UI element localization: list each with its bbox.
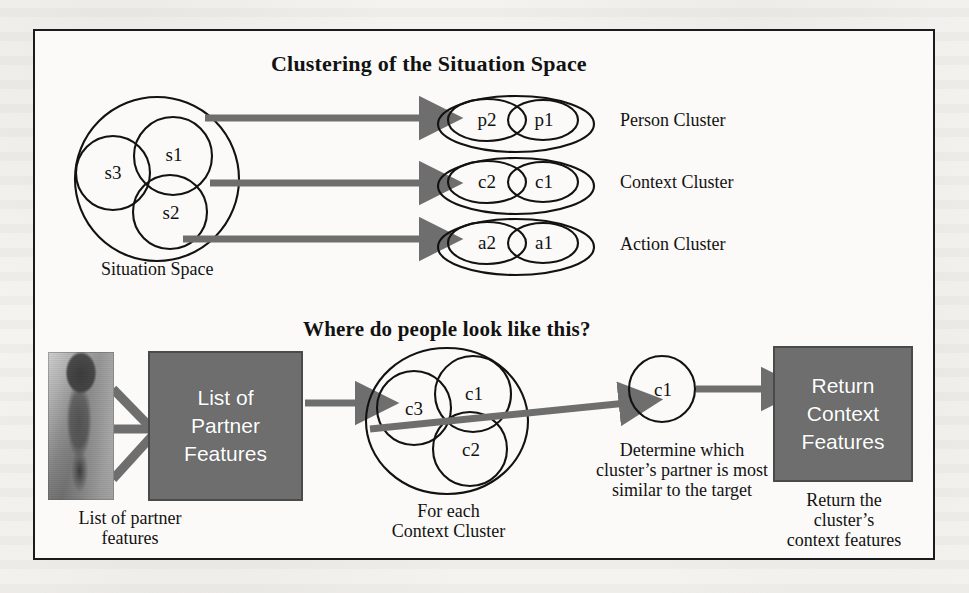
photo-caption-line1: List of partner [55, 508, 205, 528]
situation-space-label: Situation Space [101, 259, 213, 280]
cluster-caption-line2: Context Cluster [356, 521, 541, 541]
node-c1-selected: c1 [654, 379, 672, 401]
top-section-title: Clustering of the Situation Space [271, 51, 587, 77]
node-a2: a2 [478, 232, 496, 254]
action-cluster-shape [438, 219, 594, 275]
photo-caption: List of partner features [55, 508, 205, 548]
node-c2-cluster: c2 [462, 439, 480, 461]
context-cluster-label: Context Cluster [620, 172, 734, 193]
person-photo-icon [48, 352, 114, 500]
list-of-partner-features-box[interactable]: List of Partner Features [148, 351, 303, 501]
node-a1: a1 [535, 232, 553, 254]
return-context-features-box[interactable]: Return Context Features [773, 346, 913, 482]
bottom-section-title: Where do people look like this? [303, 317, 591, 342]
node-c2-top: c2 [478, 171, 496, 193]
person-cluster-shape [438, 96, 594, 152]
output-box-line2: Context [807, 400, 879, 428]
output-caption-line3: context features [758, 530, 930, 550]
node-s1: s1 [166, 144, 183, 166]
node-c3: c3 [405, 398, 423, 420]
output-caption-line1: Return the [758, 490, 930, 510]
action-cluster-label: Action Cluster [620, 234, 726, 255]
output-box-line1: Return [811, 372, 874, 400]
cluster-caption: For each Context Cluster [356, 501, 541, 541]
input-box-line2: Partner [191, 412, 260, 440]
cluster-arrows [183, 118, 427, 239]
node-c1-top: c1 [535, 171, 553, 193]
output-box-caption: Return the cluster’s context features [758, 490, 930, 550]
cluster-caption-line1: For each [356, 501, 541, 521]
input-box-line1: List of [197, 384, 253, 412]
node-p1: p1 [535, 109, 554, 131]
context-cluster-shape [438, 158, 594, 214]
input-box-line3: Features [184, 440, 267, 468]
node-s2: s2 [163, 202, 180, 224]
node-s3: s3 [105, 162, 122, 184]
node-c1-cluster: c1 [465, 383, 483, 405]
node-p2: p2 [478, 109, 497, 131]
output-caption-line2: cluster’s [758, 510, 930, 530]
figure-frame: Clustering of the Situation Space s3 s1 … [33, 29, 935, 560]
output-box-line3: Features [802, 428, 885, 456]
person-cluster-label: Person Cluster [620, 110, 726, 131]
photo-caption-line2: features [55, 528, 205, 548]
